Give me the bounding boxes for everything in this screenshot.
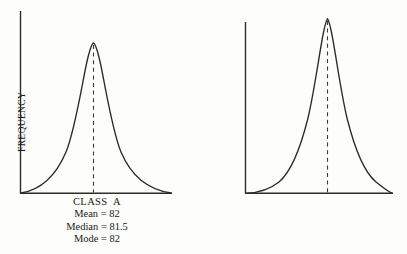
frequency-distribution-figure: FREQUENCY CLASS A Mean = 82 Median = 81.… — [0, 0, 407, 254]
chart-panel-class-a: FREQUENCY CLASS A Mean = 82 Median = 81.… — [0, 0, 203, 254]
class-a-median: Median = 81.5 — [12, 221, 182, 234]
class-b-plot — [203, 0, 407, 200]
class-a-mean: Mean = 82 — [12, 208, 182, 221]
class-a-plot — [0, 0, 203, 200]
class-a-label: CLASS A — [12, 195, 182, 208]
class-a-caption: CLASS A Mean = 82 Median = 81.5 Mode = 8… — [12, 195, 182, 246]
class-b-distribution-curve — [247, 19, 392, 193]
class-a-mode: Mode = 82 — [12, 233, 182, 246]
class-a-distribution-curve — [21, 43, 171, 193]
class-a-y-axis-label: FREQUENCY — [17, 92, 27, 152]
chart-panel-class-b: FREQUENCY CLASS B Mean = 83 Median = 82.… — [203, 0, 407, 254]
